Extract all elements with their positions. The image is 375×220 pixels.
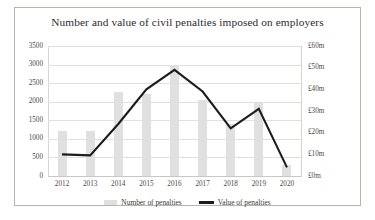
gridline [48, 176, 301, 177]
x-tick-2015: 2015 [131, 180, 161, 188]
line-swatch-icon [199, 201, 214, 204]
x-tick-2017: 2017 [188, 180, 218, 188]
legend-item-value-of-penalties: Value of penalties [199, 198, 271, 207]
left-tick-2000: 2000 [15, 97, 43, 105]
legend-label: Value of penalties [218, 198, 271, 207]
value-of-penalties-line [62, 70, 287, 168]
line-series [48, 46, 301, 176]
plot-area [48, 46, 301, 176]
right-tick-30m: £30m [308, 107, 348, 115]
x-tick-2018: 2018 [216, 180, 246, 188]
right-tick-40m: £40m [308, 85, 348, 93]
left-tick-3000: 3000 [15, 60, 43, 68]
chart-legend: Number of penalties Value of penalties [15, 198, 360, 207]
x-tick-2020: 2020 [272, 180, 302, 188]
x-tick-2016: 2016 [160, 180, 190, 188]
x-tick-2019: 2019 [244, 180, 274, 188]
left-tick-1500: 1500 [15, 116, 43, 124]
left-tick-0: 0 [15, 172, 43, 180]
x-tick-2014: 2014 [103, 180, 133, 188]
right-tick-50m: £50m [308, 63, 348, 71]
left-tick-3500: 3500 [15, 42, 43, 50]
legend-label: Number of penalties [121, 198, 181, 207]
x-tick-2012: 2012 [47, 180, 77, 188]
right-tick-0m: £0m [308, 172, 348, 180]
right-tick-60m: £60m [308, 42, 348, 50]
left-tick-2500: 2500 [15, 79, 43, 87]
legend-item-number-of-penalties: Number of penalties [104, 198, 181, 207]
bar-swatch-icon [104, 200, 117, 205]
left-tick-500: 500 [15, 153, 43, 161]
right-tick-20m: £20m [308, 128, 348, 136]
chart-title: Number and value of civil penalties impo… [15, 16, 360, 28]
x-tick-2013: 2013 [75, 180, 105, 188]
right-tick-10m: £10m [308, 150, 348, 158]
left-tick-1000: 1000 [15, 134, 43, 142]
right-axis-line [301, 46, 302, 177]
chart-container: Number and value of civil penalties impo… [14, 7, 361, 206]
